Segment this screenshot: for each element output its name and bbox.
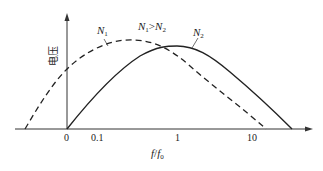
x-axis-arrow-icon [305, 127, 313, 132]
series-n2-curve [67, 46, 292, 129]
n1-label: N1 [97, 25, 108, 38]
x-tick-1: 1 [175, 133, 180, 143]
n2-label: N2 [193, 27, 204, 40]
x-axis-label: f/f0 [151, 148, 164, 161]
x-tick-0: 0 [64, 133, 69, 143]
comparison-label: N1>N2 [138, 21, 166, 34]
x-tick-10: 10 [247, 133, 257, 143]
y-axis-label: 电压 [45, 46, 60, 66]
n1-leader-line [104, 39, 108, 46]
y-axis-arrow-icon [65, 13, 70, 21]
x-tick-0-1: 0.1 [91, 133, 104, 143]
